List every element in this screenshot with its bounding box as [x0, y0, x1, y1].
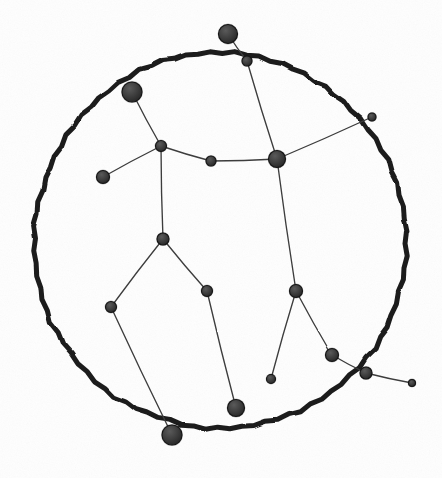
star-edge-right-upper [367, 112, 377, 122]
star-edge-right-upper-disc [368, 113, 376, 121]
star-edge-right-lower-disc [360, 367, 372, 379]
paper-texture [0, 0, 442, 478]
constellation-stars [96, 24, 417, 446]
edge-knee-to-foot-right-small [271, 291, 296, 379]
star-knee-right [289, 284, 304, 299]
star-edge-right-lower [359, 366, 373, 380]
star-hip-left-disc [106, 302, 117, 313]
star-shoulder-right-disc [269, 151, 286, 168]
star-top-small [241, 55, 253, 67]
star-knee-right-disc [290, 285, 303, 298]
star-foot-left-disc [162, 425, 182, 445]
star-belt-mid-disc [206, 156, 216, 166]
sky-horizon-circle [34, 52, 408, 430]
star-arm-left-disc [97, 171, 110, 184]
edge-shoulder-right-to-knee [277, 159, 296, 291]
star-ankle-right-disc [326, 349, 339, 362]
star-torso-center-disc [157, 233, 169, 245]
star-foot-center-disc [228, 400, 245, 417]
edge-edge-right-lower-to-tail [366, 373, 412, 383]
sky-horizon-circle-path [34, 52, 408, 430]
edge-top-small-to-shoulder-right [247, 61, 277, 159]
edge-junction-to-torso [161, 146, 163, 239]
star-foot-right-small-disc [267, 375, 276, 384]
star-ankle-right [325, 348, 340, 363]
star-foot-left [161, 424, 183, 446]
star-junction-upper-disc [156, 141, 167, 152]
constellation-figure [0, 0, 442, 478]
star-tail-right [408, 379, 417, 388]
star-tail-right-disc [409, 380, 416, 387]
star-shoulder-right [268, 150, 287, 169]
edge-hip-left-to-foot-left [111, 307, 172, 435]
star-top-small-disc [242, 56, 252, 66]
edge-knee-to-ankle-right [296, 291, 332, 355]
star-foot-right-small [266, 374, 277, 385]
star-hip-right [201, 285, 214, 298]
edge-shoulder-right-to-edge-up [277, 117, 372, 159]
star-belt-mid [205, 155, 217, 167]
star-torso-center [156, 232, 170, 246]
star-foot-center [227, 399, 246, 418]
star-top-bright-disc [219, 25, 238, 44]
star-shoulder-left-disc [122, 82, 142, 102]
star-top-bright [218, 24, 239, 45]
star-junction-upper [155, 140, 168, 153]
edge-torso-to-hip-left [111, 239, 163, 307]
star-shoulder-left [121, 81, 143, 103]
edge-junction-to-arm-left [103, 146, 161, 177]
star-hip-right-disc [202, 286, 213, 297]
edge-junction-to-belt-mid [161, 146, 211, 161]
edge-hip-right-to-foot-center [207, 291, 236, 408]
edge-torso-to-hip-right [163, 239, 207, 291]
star-hip-left [105, 301, 118, 314]
edge-belt-mid-to-shoulder-right [211, 159, 277, 161]
constellation-canvas [0, 0, 442, 478]
star-arm-left [96, 170, 111, 185]
